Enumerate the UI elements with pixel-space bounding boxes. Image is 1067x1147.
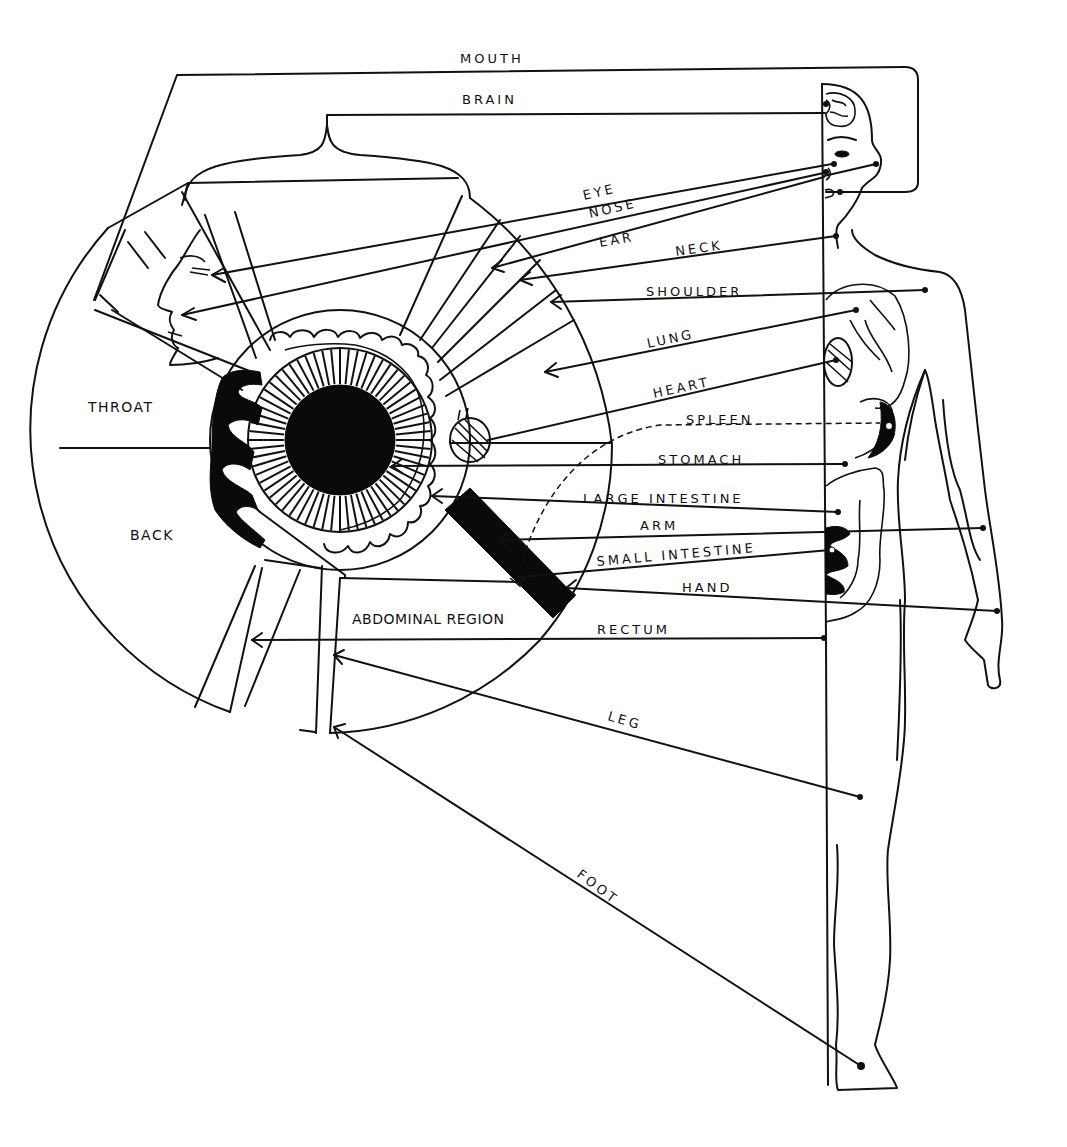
body-markers (821, 101, 1000, 1070)
iridology-diagram: MOUTH BRAIN EYE NOSE EAR NECK SHOULDER L… (0, 0, 1067, 1147)
label-leg: LEG (606, 708, 643, 732)
label-eye: EYE (581, 181, 617, 203)
leader-lines (182, 164, 997, 1066)
label-shoulder: SHOULDER (646, 284, 742, 299)
label-abdominal-region: ABDOMINAL REGION (352, 611, 505, 627)
label-rectum: RECTUM (597, 622, 670, 637)
label-neck: NECK (674, 237, 723, 258)
human-body-figure (822, 84, 1002, 1090)
label-heart: HEART (652, 374, 712, 401)
label-arm: ARM (640, 518, 678, 533)
label-large-intestine: LARGE INTESTINE (583, 491, 744, 506)
hand-band[interactable] (445, 488, 575, 618)
pupil (285, 385, 395, 495)
brain-brace (185, 125, 470, 200)
label-mouth: MOUTH (460, 51, 524, 66)
label-back: BACK (130, 527, 174, 543)
label-brain: BRAIN (462, 92, 517, 107)
label-small-intestine: SMALL INTESTINE (596, 540, 756, 569)
label-hand: HAND (682, 580, 732, 595)
label-throat: THROAT (87, 399, 154, 415)
body-small-intestine (826, 526, 850, 594)
spine-band (210, 370, 265, 548)
label-spleen: SPLEEN (686, 412, 754, 427)
label-stomach: STOMACH (658, 452, 744, 467)
label-ear: EAR (598, 229, 635, 250)
iris-chart (30, 67, 918, 733)
